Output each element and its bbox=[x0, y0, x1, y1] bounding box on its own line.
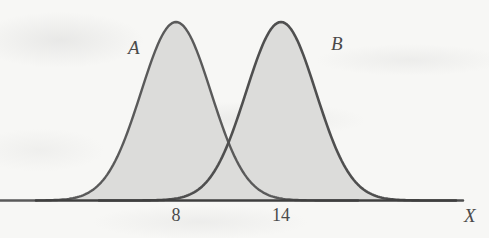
curve-label-b: B bbox=[331, 34, 343, 53]
x-axis-label: X bbox=[464, 206, 476, 225]
x-tick-label-8: 8 bbox=[172, 206, 181, 224]
distribution-figure: A B 8 14 X bbox=[0, 0, 489, 238]
x-tick-label-14: 14 bbox=[272, 206, 290, 224]
distribution-plot bbox=[0, 0, 489, 238]
curve-label-a: A bbox=[128, 38, 140, 57]
